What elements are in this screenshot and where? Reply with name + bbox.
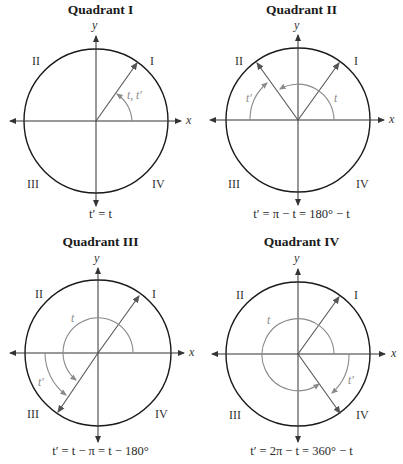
angle-label-t: t [267, 314, 270, 326]
quadrant-label-iv: IV [356, 408, 369, 423]
terminal-ray [298, 354, 340, 413]
quadrant-label-iv: IV [155, 407, 168, 422]
panel-quadrant-2: Quadrant II y x I II III IV t t′ t′ = π … [201, 0, 402, 232]
reference-angle-formula: t′ = 2π − t = 360° − t [201, 444, 402, 459]
angle-arc-t [280, 84, 334, 120]
panel-quadrant-1: Quadrant I y x I II III IV t, t′ t′ = t [0, 0, 201, 232]
angle-arc-t-prime [250, 83, 267, 120]
x-axis-label: x [389, 112, 394, 127]
y-axis-label: y [94, 251, 99, 266]
angle-label: t, t′ [127, 89, 142, 101]
angle-label-t: t [71, 312, 74, 324]
y-axis-label: y [294, 251, 299, 266]
panel-quadrant-4: Quadrant IV y x I II III IV t t′ t′ = 2π… [201, 232, 402, 464]
angle-label-t-prime: t′ [348, 374, 354, 386]
quadrant-label-ii: II [235, 54, 243, 69]
reference-angle-formula: t′ = π − t = 180° − t [201, 207, 402, 222]
x-axis-label: x [186, 113, 191, 128]
angle-label-t-prime: t′ [38, 376, 44, 388]
y-axis-label: y [92, 18, 97, 33]
angle-label-t: t [334, 92, 337, 104]
x-axis-label: x [189, 345, 194, 360]
quadrant-label-ii: II [32, 54, 40, 69]
reference-angle-formula: t′ = t − π = t − 180° [0, 444, 201, 459]
terminal-ray [257, 63, 298, 120]
unit-circle-diagram [0, 0, 201, 232]
quadrant-label-iii: III [229, 408, 241, 423]
unit-circle-diagram [0, 232, 201, 464]
quadrant-label-i: I [354, 288, 358, 303]
x-axis-label: x [391, 346, 396, 361]
unit-circle-diagram [201, 232, 403, 464]
reference-angle-formula: t′ = t [0, 207, 201, 222]
quadrant-label-iv: IV [356, 177, 369, 192]
quadrant-label-i: I [150, 54, 154, 69]
quadrant-label-ii: II [236, 288, 244, 303]
y-axis-label: y [294, 18, 299, 33]
quadrant-label-iii: III [27, 407, 39, 422]
panel-quadrant-3: Quadrant III y x I II III IV t t′ t′ = t… [0, 232, 201, 464]
quadrant-label-i: I [354, 54, 358, 69]
quadrant-label-iii: III [228, 177, 240, 192]
quadrant-label-ii: II [35, 287, 43, 302]
quadrant-label-i: I [152, 287, 156, 302]
angle-label-t-prime: t′ [246, 92, 252, 104]
unit-circle-diagram [201, 0, 403, 232]
angle-arc-t-prime [45, 353, 66, 395]
quadrant-label-iii: III [27, 177, 39, 192]
quadrant-label-iv: IV [152, 177, 165, 192]
angle-arc-t-prime [332, 354, 349, 393]
